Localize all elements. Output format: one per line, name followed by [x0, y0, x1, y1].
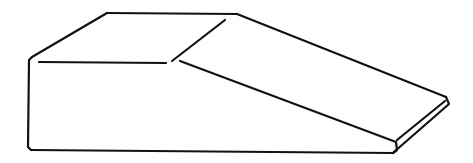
wedge-diagram [0, 0, 473, 163]
ramp-end-corner [393, 142, 397, 153]
top-back-edge [107, 13, 237, 14]
ramp-front-edge [180, 61, 396, 142]
left-vertical-edge [28, 60, 31, 150]
ramp-end-lip-inner [397, 101, 445, 140]
wedge-drawing [0, 0, 473, 163]
top-divider-edge [172, 20, 225, 61]
front-top-edge [39, 62, 166, 63]
left-slanted-edge [29, 13, 107, 60]
ramp-back-edge [237, 14, 446, 97]
bottom-edge [31, 150, 393, 153]
